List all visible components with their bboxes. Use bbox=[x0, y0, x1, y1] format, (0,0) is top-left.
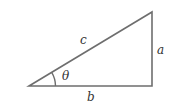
label-hypotenuse: c bbox=[80, 33, 87, 47]
label-angle: θ bbox=[62, 69, 70, 83]
label-adjacent: b bbox=[87, 90, 95, 104]
triangle bbox=[29, 12, 152, 86]
angle-arc bbox=[52, 72, 56, 86]
label-opposite: a bbox=[157, 43, 164, 57]
right-triangle-diagram: c a b θ bbox=[0, 0, 173, 104]
